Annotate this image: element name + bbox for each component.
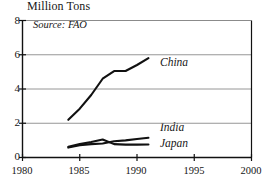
series-lines	[68, 58, 148, 147]
plot-area	[0, 0, 265, 183]
chart-figure: Million Tons Source: FAO 8 6 4 2 0 1980 …	[0, 0, 265, 183]
gridlines	[23, 21, 252, 124]
